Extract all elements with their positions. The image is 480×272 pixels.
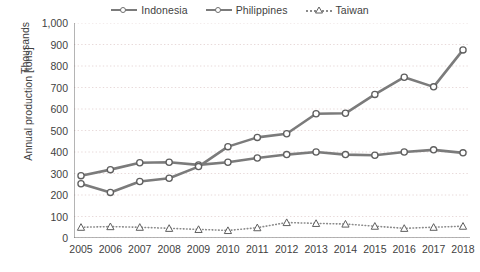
data-point-indonesia-2005[interactable] [78,173,84,179]
y-axis-tick-label: 100 [28,212,68,222]
y-axis-tick-label: 800 [28,61,68,71]
data-point-philippines-2018[interactable] [460,47,466,53]
data-point-philippines-2007[interactable] [137,178,143,184]
legend-marker-line-circle-icon [111,5,137,15]
data-point-philippines-2009[interactable] [195,164,201,170]
y-axis-tick-label: 300 [28,169,68,179]
data-point-philippines-2011[interactable] [254,134,260,140]
data-point-indonesia-2011[interactable] [254,155,260,161]
data-point-indonesia-2013[interactable] [313,149,319,155]
line-chart: Indonesia Philippines Taiwan Annual prod… [0,0,480,272]
data-point-indonesia-2010[interactable] [225,159,231,165]
series-line-philippines [81,50,463,193]
legend-marker-line-circle-icon [206,5,232,15]
data-point-philippines-2005[interactable] [78,181,84,187]
legend-item-taiwan[interactable]: Taiwan [306,4,369,16]
data-point-philippines-2014[interactable] [342,110,348,116]
legend-label-indonesia: Indonesia [141,4,187,16]
data-point-indonesia-2018[interactable] [460,150,466,156]
y-axis-tick-label: 0 [28,233,68,243]
plot-area [74,23,470,238]
data-point-philippines-2008[interactable] [166,175,172,181]
legend-item-indonesia[interactable]: Indonesia [111,4,187,16]
y-axis-tick-label: 500 [28,126,68,136]
data-point-philippines-2012[interactable] [284,131,290,137]
data-point-philippines-2015[interactable] [372,91,378,97]
data-point-philippines-2017[interactable] [431,84,437,90]
y-axis-tick-label: 600 [28,104,68,114]
data-point-indonesia-2015[interactable] [372,152,378,158]
data-point-indonesia-2012[interactable] [284,151,290,157]
y-axis-tick-label: 700 [28,83,68,93]
y-axis-tick-label: 900 [28,40,68,50]
legend-label-taiwan: Taiwan [336,4,369,16]
data-point-philippines-2010[interactable] [225,144,231,150]
y-axis-tick-label: 1,000 [28,18,68,28]
data-point-indonesia-2014[interactable] [342,151,348,157]
data-point-philippines-2013[interactable] [313,111,319,117]
data-point-indonesia-2006[interactable] [107,167,113,173]
y-axis-tick-label: 200 [28,190,68,200]
chart-legend: Indonesia Philippines Taiwan [0,4,480,16]
data-point-indonesia-2016[interactable] [401,149,407,155]
legend-item-philippines[interactable]: Philippines [206,4,288,16]
x-axis-tick-label: 2018 [443,243,480,255]
data-point-philippines-2006[interactable] [107,189,113,195]
data-point-indonesia-2007[interactable] [137,160,143,166]
y-axis-tick-label: 400 [28,147,68,157]
data-point-philippines-2016[interactable] [401,74,407,80]
data-point-indonesia-2017[interactable] [431,147,437,153]
legend-label-philippines: Philippines [236,4,288,16]
data-point-indonesia-2008[interactable] [166,159,172,165]
legend-marker-dotted-triangle-icon [306,5,332,15]
